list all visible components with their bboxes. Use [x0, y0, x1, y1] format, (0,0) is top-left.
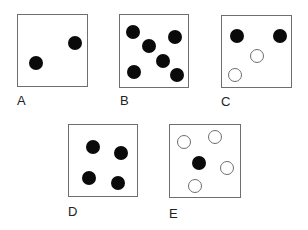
filled-dot-icon [86, 140, 100, 154]
filled-dot-icon [230, 29, 244, 43]
dot-pattern-figure: ABCDE [0, 0, 308, 230]
filled-dot-icon [168, 30, 182, 44]
panel-label-d: D [68, 205, 77, 218]
filled-dot-icon [82, 171, 96, 185]
open-dot-icon [188, 179, 202, 193]
panel-label-b: B [120, 94, 129, 107]
open-dot-icon [228, 68, 242, 82]
filled-dot-icon [127, 65, 141, 79]
filled-dot-icon [111, 176, 125, 190]
filled-dot-icon [142, 39, 156, 53]
panel-box-a [17, 14, 88, 87]
open-dot-icon [177, 135, 191, 149]
filled-dot-icon [170, 68, 184, 82]
filled-dot-icon [156, 54, 170, 68]
filled-dot-icon [29, 56, 43, 70]
filled-dot-icon [126, 25, 140, 39]
filled-dot-icon [273, 29, 287, 43]
open-dot-icon [220, 161, 234, 175]
filled-dot-icon [68, 36, 82, 50]
panel-label-a: A [17, 94, 26, 107]
open-dot-icon [208, 130, 222, 144]
panel-label-c: C [221, 95, 230, 108]
filled-dot-icon [192, 156, 206, 170]
open-dot-icon [250, 49, 264, 63]
panel-label-e: E [169, 207, 178, 220]
filled-dot-icon [114, 146, 128, 160]
panel-box-d [68, 124, 138, 197]
